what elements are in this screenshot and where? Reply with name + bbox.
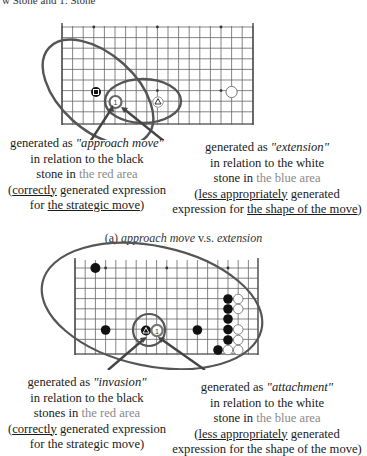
black-stone-square bbox=[91, 87, 101, 97]
go-board-b: 1 bbox=[0, 240, 367, 370]
move-1-label: 1 bbox=[114, 99, 118, 106]
panel-a-left-label: generated as "approach move" in relation… bbox=[2, 136, 172, 214]
board-a-grid bbox=[62, 26, 253, 125]
panel-b-left-label: generated as "invasion" in relation to t… bbox=[2, 375, 172, 453]
panel-b-right-label: generated as "attachment" in relation to… bbox=[167, 380, 367, 456]
svg-text:1: 1 bbox=[155, 328, 159, 335]
panel-a-right-label: generated as "extension" in relation to … bbox=[167, 140, 367, 218]
go-board-a: 1 bbox=[0, 0, 367, 140]
white-stone bbox=[226, 86, 237, 97]
